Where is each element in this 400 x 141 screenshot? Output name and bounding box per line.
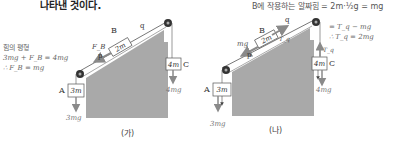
svg-text:T_q: T_q — [323, 46, 334, 54]
caption-fragment: 나타낸 것이다. — [40, 0, 101, 11]
svg-text:mg: mg — [237, 40, 249, 48]
svg-text:B: B — [259, 26, 265, 35]
svg-text:q: q — [140, 22, 145, 30]
svg-text:C: C — [329, 59, 335, 68]
svg-text:C: C — [183, 60, 189, 69]
svg-text:= T_q − mg: = T_q − mg — [329, 23, 372, 31]
svg-text:4mg: 4mg — [165, 86, 182, 94]
svg-text:A: A — [58, 86, 65, 95]
svg-text:T_q: T_q — [279, 35, 290, 43]
physics-diagram: 나타낸 것이다. B에 작용하는 알짜힘 = 2m·½g = mg 2m B F… — [0, 0, 400, 141]
svg-text:A: A — [203, 85, 210, 94]
svg-text:4m: 4m — [167, 61, 179, 69]
svg-text:∴ F_B = mg: ∴ F_B = mg — [3, 64, 45, 72]
svg-text:3m: 3m — [216, 86, 227, 94]
svg-text:F_B: F_B — [91, 43, 106, 51]
equilibrium-title: 힘의 평형 — [3, 43, 29, 52]
panel-a-label: (가) — [121, 129, 134, 138]
svg-text:3m: 3m — [70, 87, 81, 95]
svg-text:p: p — [98, 52, 103, 60]
svg-text:p: p — [247, 51, 252, 59]
net-force-equation: B에 작용하는 알짜힘 = 2m·½g = mg — [252, 1, 383, 11]
panel-b-label: (나) — [269, 126, 282, 135]
svg-text:4m: 4m — [313, 60, 325, 68]
panel-a: 2m B F_B p q 힘의 평형 3mg + F_B = 4mg ∴ F_B… — [3, 19, 189, 138]
svg-text:q: q — [285, 16, 290, 24]
svg-text:3mg + F_B = 4mg: 3mg + F_B = 4mg — [3, 54, 69, 62]
panel-b: 2m B mg T_q p q = T_q − mg ∴ T_q = 2mg 3… — [203, 16, 374, 135]
svg-text:∴ T_q = 2mg: ∴ T_q = 2mg — [329, 33, 374, 41]
svg-text:4mg: 4mg — [315, 86, 332, 94]
svg-text:3mg: 3mg — [66, 114, 82, 122]
svg-text:B: B — [111, 26, 117, 35]
svg-text:3mg: 3mg — [210, 120, 226, 128]
